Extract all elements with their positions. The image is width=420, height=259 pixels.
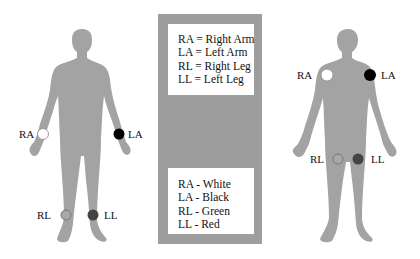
color-line-ra: RA - White (178, 178, 254, 191)
body-silhouette-left: RA LA RL LL (0, 0, 160, 259)
right-ll-label: LL (371, 153, 385, 165)
ra-electrode-icon (321, 69, 333, 81)
legend-panel: RA = Right Arm LA = Left Arm RL = Right … (158, 14, 262, 244)
ra-electrode-icon (38, 129, 49, 140)
right-body-figure: RA LA RL LL (265, 0, 420, 259)
color-line-ll: LL - Red (178, 218, 254, 231)
la-electrode-icon (364, 69, 376, 81)
abbreviation-legend: RA = Right Arm LA = Left Arm RL = Right … (168, 24, 254, 95)
rl-electrode-icon (333, 154, 343, 164)
left-ra-label: RA (19, 128, 34, 140)
la-electrode-icon (114, 129, 125, 140)
color-line-la: LA - Black (178, 191, 254, 204)
ll-electrode-icon (353, 154, 364, 165)
color-line-rl: RL - Green (178, 205, 254, 218)
legend-line-la: LA = Left Arm (178, 46, 254, 59)
rl-electrode-icon (61, 210, 71, 220)
legend-line-ll: LL = Left Leg (178, 73, 254, 86)
legend-line-rl: RL = Right Leg (178, 60, 254, 73)
right-rl-label: RL (310, 153, 324, 165)
color-legend: RA - White LA - Black RL - Green LL - Re… (168, 168, 254, 234)
left-la-label: LA (128, 128, 143, 140)
right-la-label: LA (381, 69, 396, 81)
body-silhouette-right: RA LA RL LL (265, 0, 420, 259)
legend-line-ra: RA = Right Arm (178, 33, 254, 46)
ll-electrode-icon (88, 210, 99, 221)
left-body-figure: RA LA RL LL (0, 0, 160, 259)
right-ra-label: RA (297, 69, 312, 81)
left-rl-label: RL (37, 209, 51, 221)
left-ll-label: LL (104, 209, 118, 221)
